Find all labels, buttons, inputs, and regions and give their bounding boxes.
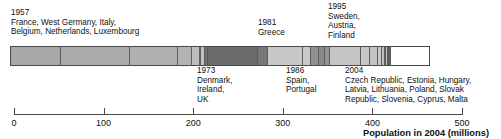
axis-tick-label: 300 <box>275 118 290 128</box>
axis-tick <box>14 108 15 115</box>
axis-tick-label: 200 <box>186 118 201 128</box>
bar-segment <box>268 47 303 65</box>
axis-tick <box>283 108 284 115</box>
figure-population-eu-accession: 1957 France, West Germany, Italy, Belgiu… <box>0 0 501 139</box>
bar-segment <box>303 47 311 65</box>
axis-tick-label: 100 <box>96 118 111 128</box>
bar-segment <box>361 47 369 65</box>
bar-segment <box>330 47 362 65</box>
bar-segment <box>311 47 319 65</box>
bar-segment <box>192 47 200 65</box>
bar-segment <box>319 47 326 65</box>
bar-segment <box>178 47 191 65</box>
stacked-bar <box>10 46 430 66</box>
annotation-2004: 2004 Czech Republic, Estonia, Hungary, L… <box>345 66 471 104</box>
axis-tick-label: 0 <box>11 118 16 128</box>
axis-tick-label: 500 <box>454 118 469 128</box>
annotation-1957: 1957 France, West Germany, Italy, Belgiu… <box>11 8 139 37</box>
axis-tick-label: 400 <box>365 118 380 128</box>
bar-segment <box>208 47 258 65</box>
axis-tick <box>104 108 105 115</box>
annotation-1981: 1981 Greece <box>258 18 285 37</box>
axis-tick <box>372 108 373 115</box>
bar-segment <box>258 47 267 65</box>
bar-segment <box>11 47 61 65</box>
bar-segment <box>130 47 178 65</box>
axis-line <box>14 114 462 115</box>
annotation-1986: 1986 Spain, Portugal <box>286 66 317 95</box>
axis-title: Population in 2004 (millions) <box>0 128 501 138</box>
bar-segment <box>390 47 391 65</box>
annotation-1973: 1973 Denmark, Ireland, UK <box>197 66 233 104</box>
bar-segment <box>61 47 130 65</box>
annotation-1995: 1995 Sweden, Austria, Finland <box>328 2 360 40</box>
x-axis <box>0 108 501 120</box>
axis-tick <box>193 108 194 115</box>
axis-tick <box>462 108 463 115</box>
bar-segment <box>370 47 378 65</box>
